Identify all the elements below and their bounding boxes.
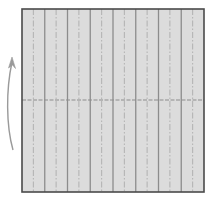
origami-diagram xyxy=(0,0,210,201)
fold-arrow-icon xyxy=(8,57,16,150)
